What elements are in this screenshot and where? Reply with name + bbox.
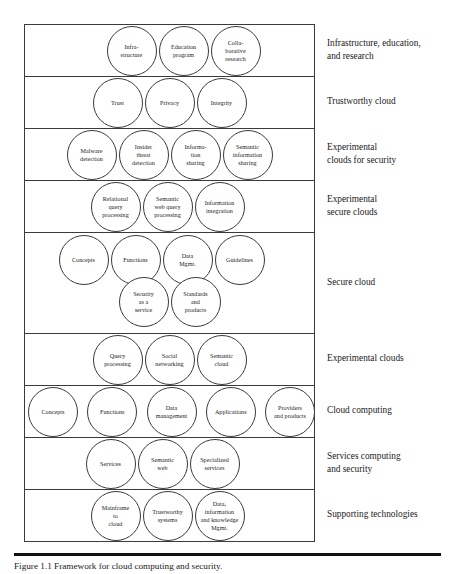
node-circle[interactable]: Queryprocessing <box>93 335 143 385</box>
layer-label-cloud-computing: Cloud computing <box>327 385 455 437</box>
layer-experimental-clouds-for-security[interactable]: MalwaredetectionInsiderthreatdetectionIn… <box>25 129 314 181</box>
caption-rule <box>14 553 441 556</box>
node-circle[interactable]: Trust <box>93 78 143 128</box>
node-label: Infra-structure <box>108 43 156 59</box>
node-label: Functions <box>112 256 160 264</box>
node-circle[interactable]: Semanticcloud <box>197 335 247 385</box>
layer-services-computing-and-security[interactable]: ServicesSemanticwebSpecializedservices <box>25 438 314 490</box>
layer-infrastructure-education-research[interactable]: Infra-structureEducationprogramColla-bor… <box>25 25 314 77</box>
node-circle[interactable]: Applications <box>206 387 256 437</box>
node-label: Concepts <box>60 256 108 264</box>
layer-stack: Infra-structureEducationprogramColla-bor… <box>24 24 315 542</box>
node-label: Socialnetworking <box>146 352 194 368</box>
layer-label-text: Secure cloud <box>327 276 375 289</box>
layer-label-text: Trustworthy cloud <box>327 95 396 108</box>
node-circle[interactable]: Semanticinformationsharing <box>223 130 273 180</box>
node-circle[interactable]: Socialnetworking <box>145 335 195 385</box>
figure-caption: Figure 1.1 Framework for cloud computing… <box>14 560 444 574</box>
node-label: Informationintegration <box>196 199 244 215</box>
layer-label-text: Infrastructure, education,and research <box>327 37 421 64</box>
node-circle[interactable]: Trustworthysystems <box>143 491 193 541</box>
node-label: Providersand products <box>266 404 314 420</box>
layer-trustworthy-cloud[interactable]: TrustPrivacyIntegrity <box>25 77 314 129</box>
layer-label-supporting-technologies: Supporting technologies <box>327 489 455 541</box>
node-row: Securityas aserviceStandardsandproducts <box>25 277 314 327</box>
node-row: TrustPrivacyIntegrity <box>25 78 314 128</box>
node-circle[interactable]: Educationprogram <box>159 26 209 76</box>
layer-label-secure-cloud: Secure cloud <box>327 232 455 333</box>
node-circle[interactable]: Malwaredetection <box>67 130 117 180</box>
node-circle[interactable]: Insiderthreatdetection <box>119 130 169 180</box>
layer-label-infrastructure-education-research: Infrastructure, education,and research <box>327 24 455 76</box>
node-row: ServicesSemanticwebSpecializedservices <box>18 439 307 489</box>
node-circle[interactable]: Privacy <box>145 78 195 128</box>
node-label: Integrity <box>198 99 246 107</box>
node-row: MalwaredetectionInsiderthreatdetectionIn… <box>25 130 314 180</box>
node-circle[interactable]: Relationalqueryprocessing <box>91 182 141 232</box>
node-label: Concepts <box>29 408 77 416</box>
layer-label-text: Experimentalclouds for security <box>327 141 396 168</box>
node-circle[interactable]: Data,informationand knowledgeMgmt. <box>195 491 245 541</box>
layer-label-text: Experimentalsecure clouds <box>327 193 377 220</box>
node-label: Functions <box>88 408 136 416</box>
node-label: Standardsandproducts <box>172 290 220 314</box>
node-circle[interactable]: Services <box>86 439 136 489</box>
node-circle[interactable]: Providersand products <box>265 387 315 437</box>
node-label: Queryprocessing <box>94 352 142 368</box>
node-circle[interactable]: Semanticweb queryprocessing <box>143 182 193 232</box>
layer-secure-cloud[interactable]: ConceptsFunctionsDataMgmt.GuidelinesSecu… <box>25 233 314 334</box>
node-circle[interactable]: Datamanagement <box>147 387 197 437</box>
node-label: Data,informationand knowledgeMgmt. <box>196 500 244 532</box>
node-label: Semanticcloud <box>198 352 246 368</box>
node-row: QueryprocessingSocialnetworkingSemanticc… <box>25 335 314 385</box>
node-row: Infra-structureEducationprogramColla-bor… <box>39 26 328 76</box>
layer-label-experimental-secure-clouds: Experimentalsecure clouds <box>327 180 455 232</box>
layer-label-experimental-clouds: Experimental clouds <box>327 333 455 385</box>
node-label: Semanticinformationsharing <box>224 143 272 167</box>
node-label: Guidelines <box>216 256 264 264</box>
layer-label-trustworthy-cloud: Trustworthy cloud <box>327 76 455 128</box>
node-circle[interactable]: Informationintegration <box>195 182 245 232</box>
node-label: Relationalqueryprocessing <box>92 195 140 219</box>
layer-label-experimental-clouds-for-security: Experimentalclouds for security <box>327 128 455 180</box>
node-circle[interactable]: Semanticweb <box>138 439 188 489</box>
node-row: ConceptsFunctionsDatamanagementApplicati… <box>25 387 318 437</box>
node-label: Securityas aservice <box>120 290 168 314</box>
node-label: Semanticweb <box>139 456 187 472</box>
node-label: Malwaredetection <box>68 147 116 163</box>
layer-experimental-secure-clouds[interactable]: RelationalqueryprocessingSemanticweb que… <box>25 181 314 233</box>
node-circle[interactable]: Functions <box>87 387 137 437</box>
node-label: Mainframetocloud <box>92 504 140 528</box>
node-circle[interactable]: Mainframetocloud <box>91 491 141 541</box>
node-label: Applications <box>207 408 255 416</box>
layer-label-services-computing-and-security: Services computingand security <box>327 437 455 489</box>
node-circle[interactable]: Colla-borativeresearch <box>211 26 261 76</box>
node-label: Privacy <box>146 99 194 107</box>
node-circle[interactable]: Integrity <box>197 78 247 128</box>
node-label: Informa-tionsharing <box>172 143 220 167</box>
layer-experimental-clouds[interactable]: QueryprocessingSocialnetworkingSemanticc… <box>25 334 314 386</box>
layer-label-text: Cloud computing <box>327 404 392 417</box>
node-circle[interactable]: Standardsandproducts <box>171 277 221 327</box>
node-row: MainframetocloudTrustworthysystemsData,i… <box>23 491 312 541</box>
layer-label-text: Supporting technologies <box>327 508 418 521</box>
node-label: Specializedservices <box>191 456 239 472</box>
node-label: Educationprogram <box>160 43 208 59</box>
layer-label-text: Services computingand security <box>327 450 401 477</box>
node-label: Colla-borativeresearch <box>212 39 260 63</box>
node-label: Trustworthysystems <box>144 508 192 524</box>
node-circle[interactable]: Securityas aservice <box>119 277 169 327</box>
node-label: DataMgmt. <box>164 252 212 268</box>
node-circle[interactable]: Concepts <box>28 387 78 437</box>
node-circle[interactable]: Infra-structure <box>107 26 157 76</box>
layer-supporting-technologies[interactable]: MainframetocloudTrustworthysystemsData,i… <box>25 490 314 542</box>
node-circle[interactable]: Informa-tionsharing <box>171 130 221 180</box>
layer-cloud-computing[interactable]: ConceptsFunctionsDatamanagementApplicati… <box>25 386 314 438</box>
node-label: Services <box>87 460 135 468</box>
node-label: Datamanagement <box>148 404 196 420</box>
node-label: Semanticweb queryprocessing <box>144 195 192 219</box>
node-label: Trust <box>94 99 142 107</box>
layer-label-text: Experimental clouds <box>327 352 404 365</box>
node-circle[interactable]: Specializedservices <box>190 439 240 489</box>
node-row: RelationalqueryprocessingSemanticweb que… <box>23 182 312 232</box>
